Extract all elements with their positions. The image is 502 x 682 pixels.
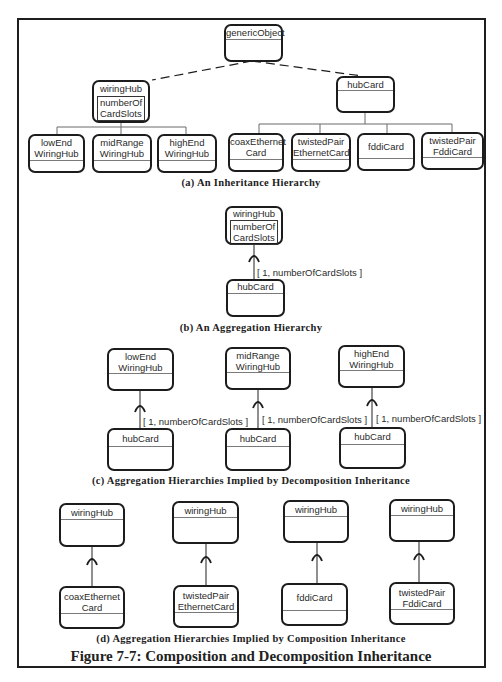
class-name: midRange WiringHub xyxy=(227,349,289,373)
class-name: coaxEthernet Card xyxy=(230,135,282,160)
class-box-wiring-hub: wiringHub xyxy=(172,501,239,544)
class-name-line: twistedPair xyxy=(391,588,453,599)
class-box-hub-card-part: hubCard xyxy=(226,279,285,317)
multiplicity-label: [ 1, numberOfCardSlots ] xyxy=(143,416,248,427)
class-name-line: lowEnd xyxy=(30,138,83,149)
class-box-twisted-pair-ethernet-card: twistedPair EthernetCard xyxy=(173,585,239,628)
class-box-high-end-wiring-hub: highEnd WiringHub xyxy=(338,345,405,388)
class-name-line: FddiCard xyxy=(391,599,453,610)
attribute-line: CardSlots xyxy=(100,109,142,120)
class-name: wiringHub xyxy=(174,503,237,518)
caption-a: (a) An Inheritance Hierarchy xyxy=(0,177,502,188)
class-name-line: fddiCard xyxy=(359,142,413,153)
class-name: wiringHub xyxy=(391,501,453,516)
class-box-hub-card-part: hubCard xyxy=(107,428,174,471)
attribute-line: numberOf xyxy=(100,98,142,109)
class-name: coaxEthernet Card xyxy=(61,588,123,614)
class-box-high-end-wiring-hub: highEnd WiringHub xyxy=(157,134,217,173)
class-name-line: twistedPair xyxy=(293,137,349,148)
class-box-fddi-card: fddiCard xyxy=(357,133,415,171)
class-box-twisted-pair-fddi-card: twistedPair FddiCard xyxy=(389,582,455,625)
connector-lines xyxy=(0,0,502,682)
class-box-low-end-wiring-hub: lowEnd WiringHub xyxy=(107,348,174,391)
class-name-line: WiringHub xyxy=(94,149,150,160)
class-name: highEnd WiringHub xyxy=(159,136,215,161)
class-name-line: WiringHub xyxy=(340,360,403,371)
caption-d: (d) Aggregation Hierarchies Implied by C… xyxy=(0,633,502,644)
class-name-line: coaxEthernet xyxy=(230,137,282,148)
multiplicity-label: [ 1, numberOfCardSlots ] xyxy=(257,267,362,278)
class-box-mid-range-wiring-hub: midRange WiringHub xyxy=(92,134,152,173)
class-name: hubCard xyxy=(338,78,393,91)
class-name: fddiCard xyxy=(283,585,346,611)
class-name-line: midRange xyxy=(94,138,150,149)
class-box-low-end-wiring-hub: lowEnd WiringHub xyxy=(28,134,85,173)
class-box-hub-card-part: hubCard xyxy=(225,428,291,471)
attribute-number-of-card-slots: numberOf CardSlots xyxy=(97,96,145,121)
class-name-line: WiringHub xyxy=(30,149,83,160)
multiplicity-label: [ 1, numberOfCardSlots ] xyxy=(376,413,481,424)
dashed-generalization-line xyxy=(252,61,362,76)
attribute-line: numberOf xyxy=(233,222,275,233)
class-name: lowEnd WiringHub xyxy=(30,136,83,161)
class-box-fddi-card: fddiCard xyxy=(281,583,348,626)
class-name-line: WiringHub xyxy=(227,362,289,373)
class-name: wiringHub xyxy=(285,502,347,517)
class-name-line: twistedPair xyxy=(175,591,237,602)
class-box-mid-range-wiring-hub: midRange WiringHub xyxy=(225,347,291,390)
class-name: wiringHub xyxy=(227,208,281,219)
class-box-hub-card: hubCard xyxy=(336,76,395,113)
class-name-line: WiringHub xyxy=(159,149,215,160)
class-name-line: midRange xyxy=(227,351,289,362)
class-name-line: Card xyxy=(230,148,282,159)
class-name: hubCard xyxy=(341,429,404,445)
class-name-line: highEnd xyxy=(340,349,403,360)
class-box-twisted-pair-fddi-card: twistedPair FddiCard xyxy=(421,132,484,170)
class-box-wiring-hub-aggregate: wiringHub numberOf CardSlots xyxy=(225,206,283,245)
class-box-coax-ethernet-card: coaxEthernet Card xyxy=(59,586,125,629)
class-name: hubCard xyxy=(227,430,289,447)
class-name: wiringHub xyxy=(61,505,123,520)
class-name-line: fddiCard xyxy=(283,593,346,604)
class-name-line: highEnd xyxy=(159,138,215,149)
class-name: twistedPair EthernetCard xyxy=(293,135,349,160)
caption-c: (c) Aggregation Hierarchies Implied by D… xyxy=(0,475,502,486)
class-box-coax-ethernet-card: coaxEthernet Card xyxy=(228,133,284,172)
class-box-hub-card-part: hubCard xyxy=(339,427,406,469)
class-name-line: lowEnd xyxy=(109,352,172,363)
class-name-line: twistedPair xyxy=(423,136,482,147)
class-box-generic-object: genericObject xyxy=(224,24,283,62)
attribute-line: CardSlots xyxy=(233,233,275,244)
class-name-line: EthernetCard xyxy=(293,148,349,159)
class-name: fddiCard xyxy=(359,135,413,159)
caption-b: (b) An Aggregation Hierarchy xyxy=(0,322,502,333)
class-name: twistedPair EthernetCard xyxy=(175,587,237,613)
class-name: lowEnd WiringHub xyxy=(109,350,172,374)
figure-title: Figure 7-7: Composition and Decompositio… xyxy=(0,648,502,665)
class-name: twistedPair FddiCard xyxy=(391,584,453,610)
class-name: twistedPair FddiCard xyxy=(423,134,482,158)
attribute-number-of-card-slots: numberOf CardSlots xyxy=(230,220,278,245)
class-name: hubCard xyxy=(109,430,172,447)
class-name: highEnd WiringHub xyxy=(340,347,403,371)
class-box-wiring-hub: wiringHub xyxy=(59,503,125,547)
class-box-twisted-pair-ethernet-card: twistedPair EthernetCard xyxy=(291,133,351,172)
dashed-generalization-line xyxy=(152,61,252,80)
class-box-wiring-hub: wiringHub numberOf CardSlots xyxy=(92,80,150,123)
class-box-wiring-hub: wiringHub xyxy=(389,499,455,542)
class-name-line: EthernetCard xyxy=(175,602,237,613)
class-box-wiring-hub: wiringHub xyxy=(283,500,349,543)
class-name: midRange WiringHub xyxy=(94,136,150,161)
class-name-line: Card xyxy=(61,603,123,614)
class-name: hubCard xyxy=(228,281,283,294)
class-name-line: coaxEthernet xyxy=(61,592,123,603)
multiplicity-label: [ 1, numberOfCardSlots ] xyxy=(262,414,367,425)
class-name-line: WiringHub xyxy=(109,363,172,374)
class-name-line: FddiCard xyxy=(423,147,482,158)
class-name: genericObject xyxy=(226,26,281,40)
class-name: wiringHub xyxy=(94,82,148,94)
